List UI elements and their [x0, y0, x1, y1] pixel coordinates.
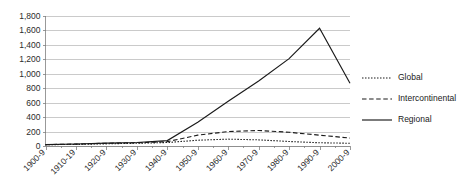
- y-axis-tick-label: 600: [26, 98, 40, 108]
- y-axis-tick-label: 400: [26, 112, 40, 122]
- x-axis-tick-label: 1950-9: [173, 147, 199, 173]
- y-axis-tick-label: 1,400: [19, 40, 41, 50]
- line-chart: 02004006008001,0001,2001,4001,6001,800 1…: [0, 0, 472, 189]
- gridlines: [46, 17, 351, 147]
- legend-label-global: Global: [398, 72, 423, 82]
- y-axis-tick-label: 200: [26, 127, 40, 137]
- x-axis-tick-label: 1900-9: [21, 147, 47, 173]
- x-axis-tick-label: 1970-9: [234, 147, 260, 173]
- x-axis-tick-label: 1910-19: [48, 147, 77, 176]
- y-axis-tick-labels: 02004006008001,0001,2001,4001,6001,800: [19, 11, 45, 151]
- y-axis-tick-label: 800: [26, 83, 40, 93]
- x-axis-tick-label: 1990-9: [295, 147, 321, 173]
- x-axis-tick-labels: 1900-91910-191920-91930-91940-91950-9196…: [21, 147, 351, 176]
- x-axis-tick-label: 1940-9: [143, 147, 169, 173]
- y-axis-tick-label: 1,000: [19, 69, 41, 79]
- x-axis-tick-label: 1920-9: [82, 147, 108, 173]
- x-axis-tick-label: 1960-9: [204, 147, 230, 173]
- x-axis-tick-label: 1930-9: [112, 147, 138, 173]
- chart-container: 02004006008001,0001,2001,4001,6001,800 1…: [0, 0, 472, 189]
- y-axis-tick-label: 1,200: [19, 54, 41, 64]
- legend-label-regional: Regional: [398, 114, 432, 124]
- y-axis-tick-label: 1,600: [19, 25, 41, 35]
- x-axis-tick-label: 2000-9: [326, 147, 352, 173]
- y-axis-tick-label: 1,800: [19, 11, 41, 21]
- x-axis-tick-label: 1980-9: [265, 147, 291, 173]
- legend-label-intercontinental: Intercontinental: [398, 93, 456, 103]
- chart-legend: GlobalIntercontinentalRegional: [362, 72, 456, 124]
